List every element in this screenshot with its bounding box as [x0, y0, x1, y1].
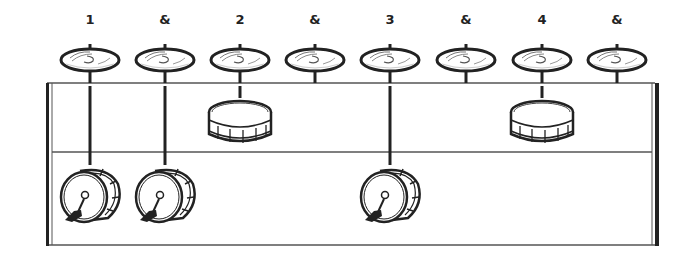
cymbal-icon: [286, 44, 344, 71]
cymbal-icon: [588, 44, 646, 71]
drum-grid: [0, 0, 698, 256]
kick-drum-icon: [361, 169, 420, 222]
snare-drum-icon: [511, 101, 573, 143]
cymbal-icon: [211, 44, 269, 71]
cymbal-icon: [61, 44, 119, 71]
cymbal-icon: [437, 44, 495, 71]
cymbal-icon: [361, 44, 419, 71]
kick-drum-icon: [61, 169, 120, 222]
cymbal-icon: [136, 44, 194, 71]
cymbal-icon: [513, 44, 571, 71]
kick-drum-icon: [136, 169, 195, 222]
snare-drum-icon: [209, 101, 271, 143]
